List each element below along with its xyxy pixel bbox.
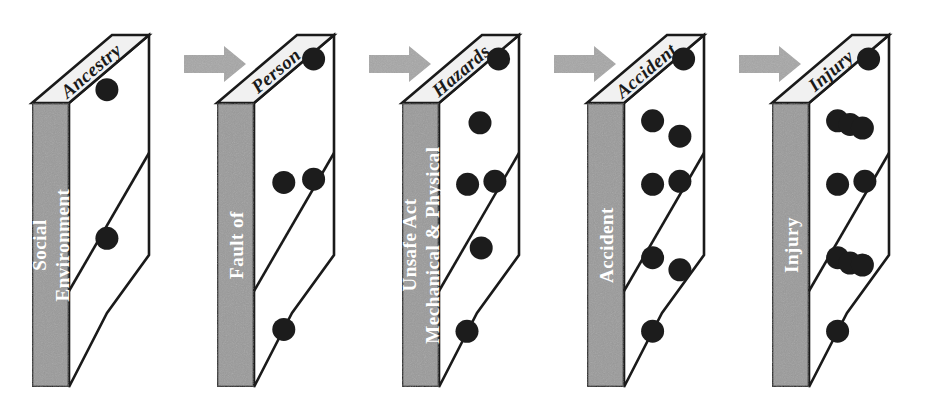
domino-pip <box>668 125 691 148</box>
domino-front-label-line: Unsafe Act <box>399 198 420 291</box>
domino-front-label-line: Injury <box>781 217 802 273</box>
domino-pip <box>272 171 295 194</box>
domino-pip <box>857 47 880 70</box>
domino-pip <box>641 109 664 132</box>
domino-pip <box>470 236 493 259</box>
domino-pip <box>483 170 506 193</box>
domino-front-label-line: Accident <box>596 207 617 283</box>
domino-pip <box>641 320 664 343</box>
domino-theory-diagram: SocialEnvironmentAncestryFault ofPersonU… <box>0 0 937 416</box>
domino-pip <box>95 227 118 250</box>
domino-pip <box>668 170 691 193</box>
domino-front-label-line: Fault of <box>226 211 247 279</box>
domino-pip <box>641 173 664 196</box>
domino-pip <box>469 111 492 134</box>
domino-pip <box>851 117 874 140</box>
domino-front-label-line: Social <box>29 219 50 271</box>
domino-pip <box>302 168 325 191</box>
domino-front-label: Accident <box>596 207 617 283</box>
domino-pip <box>826 320 849 343</box>
domino-pip <box>853 170 876 193</box>
domino-pip <box>456 320 479 343</box>
domino-front-label: Fault of <box>226 211 247 279</box>
domino-pip <box>826 173 849 196</box>
domino-pip <box>302 47 325 70</box>
domino-pip <box>641 246 664 269</box>
domino-pip <box>456 173 479 196</box>
domino-pip <box>95 78 118 101</box>
domino-pip <box>851 254 874 277</box>
domino-pip <box>272 318 295 341</box>
domino-pip <box>668 258 691 281</box>
domino-front-label-line: Mechanical & Physical <box>422 146 443 343</box>
domino-front-label-line: Environment <box>52 188 73 301</box>
domino-front-label: Injury <box>781 217 802 273</box>
diagram-canvas: SocialEnvironmentAncestryFault ofPersonU… <box>0 0 937 416</box>
